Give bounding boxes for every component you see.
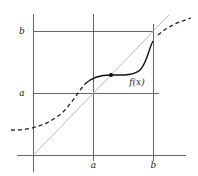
y-label-b: b — [19, 26, 25, 36]
x-label-a: a — [91, 160, 96, 170]
diagonal-line — [34, 15, 170, 155]
y-label-a: a — [19, 88, 24, 98]
x-label-b: b — [151, 160, 157, 170]
fixed-point-marker — [109, 73, 113, 77]
fixed-point-diagram: b a a b f(x) — [0, 0, 198, 176]
function-label: f(x) — [128, 77, 145, 87]
